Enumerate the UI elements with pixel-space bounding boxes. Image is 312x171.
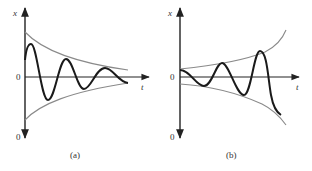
lower-envelope xyxy=(25,83,128,120)
bottom-label: 0 xyxy=(170,132,175,142)
y-axis-label: x xyxy=(167,8,172,18)
panel-caption: (b) xyxy=(226,150,237,160)
panel-b: x 0 t 0 (b) xyxy=(167,8,299,160)
damped-oscillation-curve xyxy=(25,44,128,100)
upper-envelope xyxy=(180,30,286,69)
upper-envelope xyxy=(25,32,128,70)
panel-caption: (a) xyxy=(70,150,80,160)
origin-label: 0 xyxy=(170,72,175,82)
figure-canvas: x 0 t 0 (a) x 0 t 0 (b) xyxy=(0,0,312,171)
bottom-label: 0 xyxy=(16,132,21,142)
t-axis-label: t xyxy=(296,82,299,92)
growing-oscillation-curve xyxy=(180,51,281,115)
panel-a: x 0 t 0 (a) xyxy=(12,8,149,160)
y-axis-label: x xyxy=(12,8,17,18)
t-axis-label: t xyxy=(141,82,144,92)
origin-label: 0 xyxy=(16,72,21,82)
